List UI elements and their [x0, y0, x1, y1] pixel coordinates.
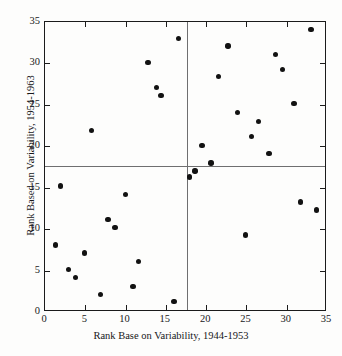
data-point — [154, 85, 159, 90]
plot-frame — [44, 21, 326, 311]
data-point — [249, 134, 254, 139]
y-tick-30 — [45, 63, 50, 64]
data-point — [266, 151, 271, 156]
data-point — [105, 217, 110, 222]
scatter-plot-figure: 0510152025303505101520253035 Rank Base o… — [0, 0, 342, 356]
x-tick-label-10: 10 — [112, 313, 138, 325]
horizontal-reference-line — [45, 166, 325, 167]
x-tick-25 — [246, 22, 247, 27]
x-tick-10 — [126, 305, 127, 310]
x-tick-20 — [206, 22, 207, 27]
y-tick-5 — [45, 271, 50, 272]
x-tick-label-25: 25 — [232, 313, 258, 325]
data-point — [273, 52, 278, 57]
data-point — [89, 128, 94, 133]
x-tick-10 — [126, 22, 127, 27]
data-point — [171, 299, 176, 304]
data-point — [66, 267, 71, 272]
x-tick-30 — [287, 22, 288, 27]
data-point — [308, 27, 313, 32]
x-tick-5 — [85, 22, 86, 27]
data-point — [58, 183, 63, 188]
x-tick-label-5: 5 — [71, 313, 97, 325]
y-tick-10 — [45, 229, 50, 230]
data-point — [216, 74, 221, 79]
data-point — [208, 160, 213, 165]
data-point — [98, 292, 103, 297]
y-tick-label-35: 35 — [16, 15, 40, 27]
data-point — [123, 192, 128, 197]
data-point — [53, 242, 58, 247]
data-point — [291, 101, 296, 106]
data-point — [136, 259, 141, 264]
y-tick-label-0: 0 — [16, 305, 40, 317]
y-tick-15 — [320, 188, 325, 189]
data-point — [187, 174, 192, 179]
y-tick-5 — [320, 271, 325, 272]
data-point — [243, 232, 248, 237]
x-axis-title: Rank Base on Variability, 1944-1953 — [0, 330, 342, 341]
y-tick-25 — [320, 105, 325, 106]
x-tick-label-20: 20 — [192, 313, 218, 325]
x-tick-5 — [85, 305, 86, 310]
data-point — [280, 67, 285, 72]
y-tick-10 — [320, 229, 325, 230]
x-tick-20 — [206, 305, 207, 310]
data-point — [192, 168, 197, 173]
data-point — [298, 199, 303, 204]
y-tick-15 — [45, 188, 50, 189]
x-tick-30 — [287, 305, 288, 310]
data-point — [176, 36, 181, 41]
data-point — [199, 143, 204, 148]
y-tick-20 — [320, 146, 325, 147]
x-tick-label-15: 15 — [152, 313, 178, 325]
x-tick-25 — [246, 305, 247, 310]
x-tick-15 — [166, 305, 167, 310]
data-point — [112, 225, 117, 230]
data-point — [158, 93, 163, 98]
data-point — [145, 60, 150, 65]
y-tick-25 — [45, 105, 50, 106]
data-point — [225, 43, 230, 48]
data-point — [130, 284, 135, 289]
top-caption-remnant — [70, 0, 320, 6]
data-point — [82, 250, 87, 255]
y-axis-title: Rank Based on Variability, 1954-1963 — [25, 36, 36, 276]
data-point — [235, 110, 240, 115]
x-tick-15 — [166, 22, 167, 27]
y-tick-20 — [45, 146, 50, 147]
y-tick-30 — [320, 63, 325, 64]
x-tick-label-35: 35 — [313, 313, 339, 325]
data-point — [314, 207, 319, 212]
data-point — [256, 119, 261, 124]
data-point — [73, 275, 78, 280]
x-tick-label-30: 30 — [273, 313, 299, 325]
